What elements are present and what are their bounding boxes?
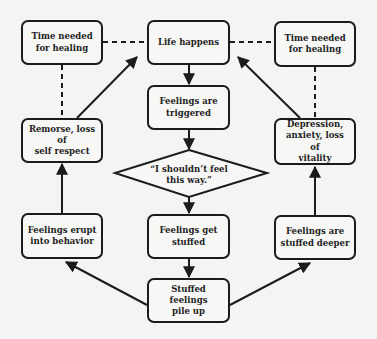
node-label: Feelings aretriggered bbox=[159, 96, 217, 118]
node-label: Life happens bbox=[158, 37, 219, 48]
node-label: Time neededfor healing bbox=[284, 33, 345, 55]
decision-label: “I shouldn’t feelthis way.” bbox=[135, 164, 243, 186]
node-depression: Depression,anxiety, loss ofvitality bbox=[274, 118, 356, 165]
node-label: Depression,anxiety, loss ofvitality bbox=[280, 119, 350, 163]
node-life-happens: Life happens bbox=[147, 20, 230, 65]
node-feelings-triggered: Feelings aretriggered bbox=[147, 85, 230, 130]
node-label: Stuffed feelingspile up bbox=[153, 284, 224, 317]
node-label: Time neededfor healing bbox=[31, 31, 92, 53]
node-label: Feelings eruptinto behavior bbox=[28, 225, 97, 247]
arrow-pileup-to-erupt bbox=[66, 262, 147, 305]
node-stuffed-feelings-pile-up: Stuffed feelingspile up bbox=[147, 278, 230, 323]
node-label: Feelings arestuffed deeper bbox=[281, 226, 350, 248]
node-remorse: Remorse, loss ofself respect bbox=[21, 118, 103, 163]
node-label: Feelings getstuffed bbox=[160, 225, 218, 247]
node-stuffed-deeper: Feelings arestuffed deeper bbox=[274, 215, 356, 260]
node-time-needed-left: Time neededfor healing bbox=[21, 20, 103, 65]
node-time-needed-right: Time neededfor healing bbox=[274, 21, 356, 67]
node-feelings-erupt: Feelings eruptinto behavior bbox=[21, 213, 103, 259]
node-label: Remorse, loss ofself respect bbox=[27, 124, 97, 157]
arrow-remorse-to-life bbox=[77, 57, 137, 118]
arrow-pileup-to-deeper bbox=[230, 263, 310, 305]
node-feelings-get-stuffed: Feelings getstuffed bbox=[147, 214, 230, 259]
